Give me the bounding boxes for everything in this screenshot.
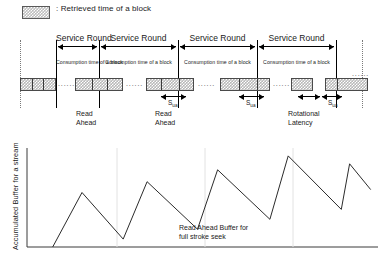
sua-label-3: Sua (328, 99, 337, 108)
ellipsis-4: ...... (273, 80, 290, 87)
service-round-label-1: Service Round (56, 33, 99, 43)
round-boundary-0 (56, 40, 57, 108)
consumption-time-label-1: Consumption time of a block (56, 59, 99, 65)
rotational-latency-line2: Latency (288, 119, 320, 128)
retrieval-bar-2 (75, 78, 123, 91)
consumption-time-label-2: Consumption time of a block (99, 59, 178, 65)
ellipsis-3: ...... (198, 80, 215, 87)
ellipsis-5: ...... (352, 70, 369, 77)
service-round-label-3: Service Round (178, 33, 257, 43)
service-round-span-3 (180, 46, 255, 47)
sua-span-3 (322, 96, 342, 97)
consumption-time-label-3: Consumption time of a block (178, 59, 257, 65)
hatched-square-icon (22, 6, 50, 19)
retrieval-bar-1 (20, 78, 56, 91)
read-ahead-note-1-line2: Ahead (76, 119, 96, 128)
sua-label-2: Sua (246, 99, 255, 108)
service-round-span-2 (101, 46, 176, 47)
read-ahead-note-1-line1: Read (76, 110, 96, 119)
service-round-label-4: Service Round (257, 33, 336, 43)
service-round-span-1 (58, 46, 97, 47)
service-round-span-4 (259, 46, 334, 47)
ellipsis-2: ...... (126, 80, 143, 87)
retrieval-bar-6 (325, 78, 368, 91)
retrieval-bar-3 (146, 78, 194, 91)
read-ahead-buffer-note-line1: Read Ahead Buffer for (179, 224, 248, 233)
round-divider-a (99, 40, 100, 108)
diagram-root: : Retrieved time of a block Service Roun… (0, 0, 383, 261)
retrieval-bar-5 (291, 78, 313, 91)
read-ahead-note-2: Read Ahead (155, 110, 175, 127)
tick-guide-left (20, 40, 22, 108)
consumption-time-label-4: Consumption time of a block (257, 59, 336, 65)
service-round-label-2: Service Round (99, 33, 178, 43)
legend-label: : Retrieved time of a block (56, 4, 151, 13)
sua-label-1: Sua (168, 99, 177, 108)
accumulated-buffer-chart (0, 130, 383, 261)
read-ahead-note-2-line1: Read (155, 110, 175, 119)
read-ahead-note-2-line2: Ahead (155, 119, 175, 128)
rotational-latency-line1: Rotational (288, 110, 320, 119)
rotational-latency-note: Rotational Latency (288, 110, 320, 127)
sua-span-1 (161, 96, 186, 97)
read-ahead-buffer-note: Read Ahead Buffer for full stroke seek (179, 224, 248, 241)
read-ahead-note-1: Read Ahead (76, 110, 96, 127)
round-divider-b (178, 40, 179, 108)
round-divider-c (257, 40, 258, 108)
rotational-latency-span (298, 96, 320, 97)
ellipsis-1: ...... (58, 80, 75, 87)
retrieval-bar-4 (220, 78, 270, 91)
read-ahead-buffer-note-line2: full stroke seek (179, 233, 248, 242)
sua-span-2 (239, 96, 264, 97)
